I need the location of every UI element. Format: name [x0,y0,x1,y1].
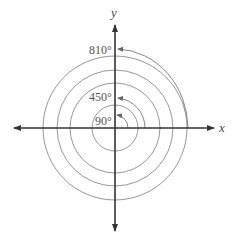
angle-label-810: 810° [89,43,112,57]
arc-90 [117,115,128,128]
arc-810 [118,49,188,128]
rotation-arcs [117,49,188,128]
angle-label-450: 450° [89,90,112,104]
x-axis-label: x [218,120,225,135]
angle-label-90: 90° [95,114,112,128]
y-axis-label: y [109,5,117,20]
arc-450 [118,98,145,128]
angle-diagram: x y 810° 450° 90° [0,0,236,239]
